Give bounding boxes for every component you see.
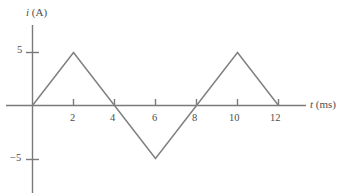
x-tick-label-2: 2 (70, 112, 75, 123)
x-tick-label-10: 10 (229, 112, 240, 123)
x-axis-unit: (ms) (316, 98, 336, 110)
x-tick-label-4: 4 (110, 112, 115, 123)
figure-triangular-current-waveform: i (A) t (ms) 5 −5 2 4 6 8 10 12 (0, 0, 347, 196)
x-tick-label-12: 12 (270, 112, 281, 123)
x-axis-label: t (ms) (310, 98, 336, 110)
waveform-plot (0, 0, 347, 196)
y-axis-symbol: i (26, 6, 29, 18)
y-tick-label-5: 5 (17, 44, 22, 55)
y-axis-unit: (A) (32, 6, 47, 18)
x-tick-label-6: 6 (152, 112, 157, 123)
y-tick-label-minus-5: −5 (10, 152, 21, 163)
x-axis-symbol: t (310, 98, 313, 110)
y-axis-label: i (A) (26, 6, 47, 18)
x-tick-label-8: 8 (192, 112, 197, 123)
